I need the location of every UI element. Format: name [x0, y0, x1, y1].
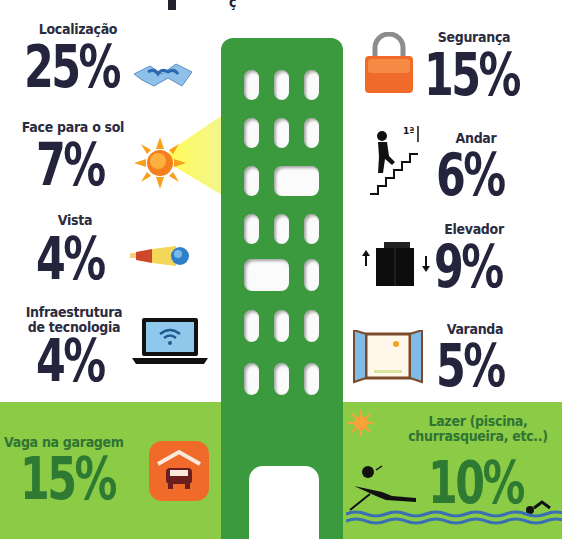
window-balcony-icon — [352, 330, 424, 384]
leisure-pool-icon — [346, 464, 562, 526]
building-door — [249, 466, 319, 539]
value-seguranca: 15% — [424, 46, 519, 104]
label-lazer-line2: churrasqueira, etc..) — [398, 429, 558, 444]
telescope-icon — [130, 245, 192, 267]
label-lazer: Lazer (piscina, churrasqueira, etc..) — [398, 414, 558, 444]
window — [244, 70, 259, 100]
value-localizacao: 25% — [24, 38, 119, 96]
elevator-icon — [356, 238, 432, 288]
window — [304, 118, 319, 148]
small-sun-icon — [348, 410, 374, 436]
window — [274, 310, 289, 342]
window — [304, 214, 319, 244]
window — [244, 166, 259, 196]
window — [304, 310, 319, 342]
window — [244, 214, 259, 244]
title-fragment: ç — [0, 0, 562, 14]
window — [274, 118, 289, 148]
padlock-icon — [364, 32, 414, 94]
building-illustration — [221, 38, 343, 539]
window — [274, 214, 289, 244]
value-tecnologia: 4% — [36, 332, 104, 390]
value-vista: 4% — [36, 230, 104, 288]
window — [244, 118, 259, 148]
window — [274, 166, 319, 196]
window — [244, 363, 259, 395]
window — [304, 259, 319, 291]
map-icon — [132, 60, 194, 88]
window — [304, 70, 319, 100]
value-elevador: 9% — [434, 238, 502, 296]
label-lazer-line1: Lazer (piscina, — [398, 414, 558, 429]
value-andar: 6% — [436, 146, 504, 204]
window — [274, 363, 289, 395]
laptop-wifi-icon — [130, 316, 210, 366]
window — [274, 70, 289, 100]
sun-icon — [134, 137, 186, 189]
garage-car-icon — [148, 440, 210, 502]
value-garagem: 15% — [20, 450, 115, 508]
label-tecnologia-line1: Infraestrutura — [20, 305, 128, 320]
window — [244, 259, 289, 291]
stairs-person-icon: 1ª — [370, 124, 422, 196]
window — [244, 310, 259, 342]
value-face-sol: 7% — [36, 136, 104, 194]
floor-mark: 1ª — [403, 126, 414, 136]
value-varanda: 5% — [436, 337, 504, 395]
window — [304, 363, 319, 395]
